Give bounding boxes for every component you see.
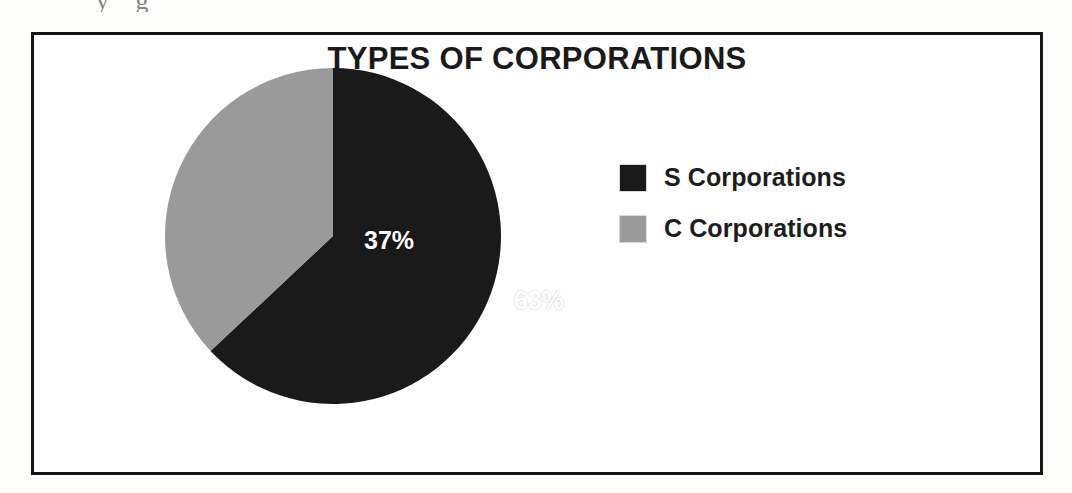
pie-chart: 63% 37% xyxy=(165,68,501,404)
pie-svg xyxy=(165,68,501,404)
scan-artifact-text: y g xyxy=(96,0,396,12)
legend-label-s-corporations: S Corporations xyxy=(664,163,846,192)
legend-swatch-c-corporations xyxy=(619,215,647,243)
chart-legend: S Corporations C Corporations xyxy=(619,163,847,243)
legend-item-c-corporations[interactable]: C Corporations xyxy=(619,214,847,243)
legend-item-s-corporations[interactable]: S Corporations xyxy=(619,163,847,192)
legend-swatch-s-corporations xyxy=(619,164,647,192)
pie-slice-label-c-corporations: 37% xyxy=(364,226,414,255)
plot-area: 63% 37% S Corporations C Corporations xyxy=(34,35,1040,472)
pie-slices xyxy=(165,68,501,404)
chart-frame: TYPES OF CORPORATIONS 63% 37% S Corporat… xyxy=(31,32,1043,475)
legend-label-c-corporations: C Corporations xyxy=(664,214,847,243)
pie-slice-label-s-corporations: 63% xyxy=(514,286,564,315)
